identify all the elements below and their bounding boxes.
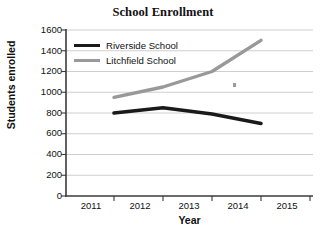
- legend-label: Riverside School: [106, 40, 178, 51]
- legend-swatch-icon: [74, 44, 100, 47]
- scan-speck-artifact: [233, 83, 236, 87]
- legend-label: Litchfield School: [106, 55, 176, 66]
- legend-item-litchfield-school: Litchfield School: [74, 54, 204, 67]
- plot-area: [0, 0, 326, 232]
- chart-figure: School Enrollment Students enrolled Year…: [0, 0, 326, 232]
- legend-item-riverside-school: Riverside School: [74, 39, 204, 52]
- x-tick-marks: [114, 196, 310, 201]
- legend-swatch-icon: [74, 59, 100, 62]
- chart-legend: Riverside School Litchfield School: [74, 39, 204, 69]
- series-line-riverside-school: [114, 108, 261, 124]
